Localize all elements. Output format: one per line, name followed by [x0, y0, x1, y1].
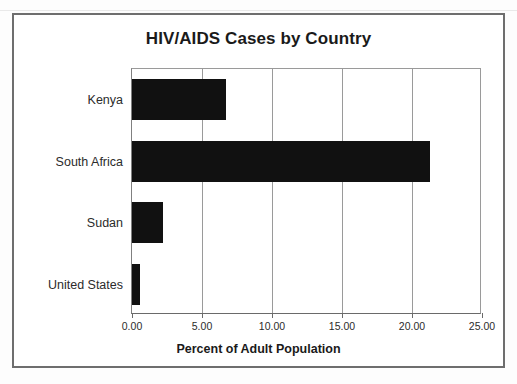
bar-row: Sudan [132, 192, 480, 254]
x-axis-tick-mark [482, 313, 483, 318]
bar [132, 141, 430, 182]
category-label: United States [0, 279, 132, 292]
x-axis-tick-label: 10.00 [242, 320, 302, 332]
bar-row: Kenya [132, 69, 480, 131]
scanned-page: HIV/AIDS Cases by Country 0.005.0010.001… [0, 0, 517, 384]
x-axis-tick-label: 15.00 [312, 320, 372, 332]
bar [132, 264, 140, 305]
x-axis-tick-label: 20.00 [382, 320, 442, 332]
chart-frame: HIV/AIDS Cases by Country 0.005.0010.001… [12, 13, 505, 368]
x-axis-tick-label: 25.00 [452, 320, 512, 332]
plot-area: 0.005.0010.0015.0020.0025.00KenyaSouth A… [131, 68, 481, 314]
chart-title: HIV/AIDS Cases by Country [14, 29, 503, 49]
category-label: Kenya [0, 94, 132, 107]
x-axis-tick-label: 5.00 [172, 320, 232, 332]
category-label: South Africa [0, 156, 132, 169]
bar-row: South Africa [132, 131, 480, 193]
bar [132, 79, 226, 120]
scan-artifact-line [0, 10, 517, 11]
bar-row: United States [132, 254, 480, 316]
category-label: Sudan [0, 217, 132, 230]
bar [132, 202, 163, 243]
x-axis-title: Percent of Adult Population [14, 342, 503, 356]
x-axis-tick-label: 0.00 [102, 320, 162, 332]
